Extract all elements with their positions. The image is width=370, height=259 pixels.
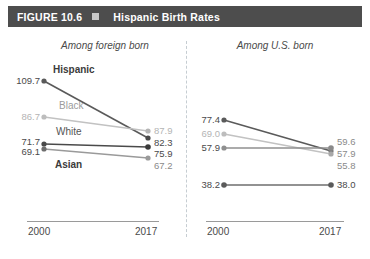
value-black-foreign-2017: 87.9: [154, 126, 173, 136]
line-asian-foreign: [44, 149, 148, 158]
point-black-foreign-2017: [145, 128, 150, 133]
chart-area: Among foreign born Hispani: [0, 27, 370, 259]
value-hispanic-foreign-2017: 82.3: [154, 138, 173, 148]
point-hispanic-us-2000: [221, 117, 226, 122]
x-axis-line-foreign: [27, 221, 159, 222]
value-asian-foreign-2000: 69.1: [0, 147, 40, 157]
x-tick-2000-us: 2000: [207, 226, 229, 237]
square-marker-icon: [92, 13, 99, 20]
point-black-us-2017: [328, 151, 333, 156]
figure-container: FIGURE 10.6 Hispanic Birth Rates Among f…: [0, 0, 370, 259]
value-asian-us-2017: 38.0: [337, 180, 356, 190]
panel-foreign-born: Among foreign born Hispani: [0, 27, 186, 259]
point-white-us-2017: [328, 145, 334, 151]
value-hispanic-us-2017: 57.9: [337, 149, 356, 159]
panel-us-born: Among U.S. born 77.4: [186, 27, 370, 259]
point-black-foreign-2000: [41, 114, 46, 119]
x-tick-2017-foreign: 2017: [135, 226, 157, 237]
x-tick-2000-foreign: 2000: [28, 226, 50, 237]
point-white-foreign-2017: [145, 144, 151, 150]
point-asian-us-2000: [221, 182, 227, 188]
value-asian-foreign-2017: 67.2: [154, 161, 173, 171]
point-white-us-2000: [221, 145, 226, 150]
value-white-us-2017: 59.6: [337, 137, 356, 147]
figure-header-bar: FIGURE 10.6 Hispanic Birth Rates: [8, 6, 362, 27]
point-black-us-2000: [221, 131, 226, 136]
value-white-foreign-2017: 75.9: [154, 149, 173, 159]
value-black-foreign-2000: 86.7: [0, 112, 40, 122]
point-asian-foreign-2000: [41, 146, 46, 151]
figure-number: FIGURE 10.6: [17, 11, 82, 23]
x-axis-line-us: [206, 221, 344, 222]
point-asian-foreign-2017: [145, 155, 150, 160]
value-black-us-2017: 55.8: [337, 161, 356, 171]
point-asian-us-2017: [328, 182, 334, 188]
series-label-white-foreign: White: [56, 126, 82, 137]
figure-title: Hispanic Birth Rates: [113, 11, 220, 23]
series-label-asian-foreign: Asian: [55, 159, 82, 170]
line-white-foreign: [44, 144, 148, 147]
value-white-us-2000: 57.9: [186, 143, 220, 153]
value-hispanic-foreign-2000: 109.7: [0, 76, 40, 86]
point-hispanic-foreign-2017: [145, 135, 150, 140]
series-label-hispanic-foreign: Hispanic: [53, 64, 95, 75]
line-hispanic-us: [224, 120, 331, 151]
x-tick-2017-us: 2017: [319, 226, 341, 237]
series-label-black-foreign: Black: [59, 100, 83, 111]
value-hispanic-us-2000: 77.4: [186, 115, 220, 125]
point-hispanic-foreign-2000: [41, 78, 46, 83]
value-asian-us-2000: 38.2: [186, 180, 220, 190]
value-black-us-2000: 69.0: [186, 129, 220, 139]
line-black-us: [224, 134, 331, 154]
point-white-foreign-2000: [41, 141, 46, 146]
